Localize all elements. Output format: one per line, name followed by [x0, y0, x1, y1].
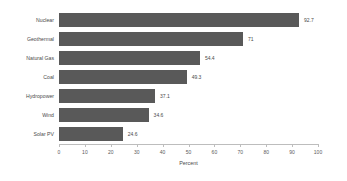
x-axis-tick-label: 50 [186, 149, 192, 155]
bar-value-label: 24.6 [128, 127, 138, 141]
x-axis-tick-label: 30 [134, 149, 140, 155]
x-axis-title: Percent [59, 160, 318, 166]
bar [59, 89, 155, 103]
bar [59, 127, 123, 141]
x-axis-tick-label: 90 [289, 149, 295, 155]
category-label: Natural Gas [26, 51, 54, 65]
category-label: Nuclear [36, 13, 54, 27]
x-axis-tick-label: 20 [108, 149, 114, 155]
bar [59, 13, 299, 27]
x-axis-tick-label: 40 [160, 149, 166, 155]
plot-area: Nuclear92.7Geothermal71Natural Gas54.4Co… [59, 11, 318, 144]
x-axis-tick [266, 144, 267, 147]
bar-value-label: 34.6 [154, 108, 164, 122]
bar-row: Hydropower37.1 [59, 87, 318, 106]
bar-row: Natural Gas54.4 [59, 49, 318, 68]
x-axis-tick-label: 60 [212, 149, 218, 155]
bar-row: Nuclear92.7 [59, 11, 318, 30]
category-label: Coal [43, 70, 54, 84]
x-axis-tick-label: 100 [314, 149, 322, 155]
category-label: Geothermal [27, 32, 54, 46]
category-label: Wind [42, 108, 54, 122]
bar-value-label: 49.3 [192, 70, 202, 84]
x-axis-tick-label: 0 [58, 149, 61, 155]
x-axis-tick [163, 144, 164, 147]
x-axis-tick-label: 10 [82, 149, 88, 155]
x-axis-tick [214, 144, 215, 147]
x-axis-tick [189, 144, 190, 147]
x-axis-tick [111, 144, 112, 147]
bar-row: Geothermal71 [59, 30, 318, 49]
bar [59, 51, 200, 65]
bar [59, 70, 187, 84]
category-label: Hydropower [26, 89, 54, 103]
bar-value-label: 37.1 [160, 89, 170, 103]
x-axis-tick [137, 144, 138, 147]
bar-chart: Nuclear92.7Geothermal71Natural Gas54.4Co… [0, 0, 347, 181]
x-axis-tick-label: 80 [263, 149, 269, 155]
x-axis-tick-label: 70 [238, 149, 244, 155]
bar-row: Solar PV24.6 [59, 125, 318, 144]
x-axis-tick [292, 144, 293, 147]
x-axis-tick [85, 144, 86, 147]
bar-value-label: 92.7 [304, 13, 314, 27]
bar-row: Coal49.3 [59, 68, 318, 87]
bar-row: Wind34.6 [59, 106, 318, 125]
x-axis-tick [318, 144, 319, 147]
bar-value-label: 71 [248, 32, 254, 46]
x-axis-tick [240, 144, 241, 147]
x-axis-tick [59, 144, 60, 147]
bar [59, 108, 149, 122]
bar [59, 32, 243, 46]
bar-value-label: 54.4 [205, 51, 215, 65]
category-label: Solar PV [34, 127, 54, 141]
